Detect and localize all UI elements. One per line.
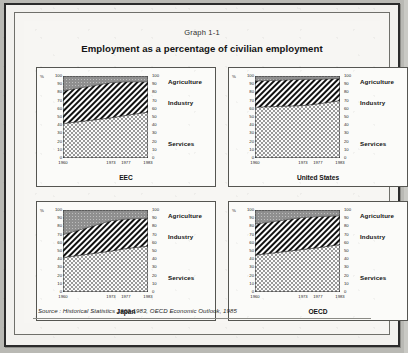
- y-tick-label: 70: [344, 233, 349, 237]
- plot-area: [255, 210, 340, 292]
- y-tick-label: 70: [249, 233, 254, 237]
- y-tick-label: 70: [152, 233, 157, 237]
- legend-label-services: Services: [360, 274, 386, 281]
- y-tick-label: 40: [152, 123, 157, 127]
- x-tick-label: 1977: [313, 160, 322, 165]
- y-tick-label: 90: [57, 82, 62, 86]
- y-tick-label: 100: [152, 74, 159, 78]
- y-axis-left: 1009080706050403020100: [38, 210, 62, 292]
- y-tick-label: 80: [344, 224, 349, 228]
- y-tick-label: 20: [57, 140, 62, 144]
- legend-label-services: Services: [168, 274, 194, 281]
- y-tick-label: 60: [57, 107, 62, 111]
- graph-number: Graph 1-1: [24, 28, 380, 37]
- y-tick-label: 20: [249, 274, 254, 278]
- y-tick-label: 50: [249, 115, 254, 119]
- chart-caption: OECD: [229, 308, 407, 315]
- legend-label-industry: Industry: [360, 99, 385, 106]
- y-tick-label: 90: [57, 216, 62, 220]
- legend-label-agriculture: Agriculture: [168, 212, 202, 219]
- y-tick-label: 90: [344, 82, 349, 86]
- y-tick-label: 100: [247, 74, 254, 78]
- y-tick-label: 100: [55, 208, 62, 212]
- y-tick-label: 80: [57, 224, 62, 228]
- y-tick-label: 70: [57, 233, 62, 237]
- legend-label-industry: Industry: [168, 233, 193, 240]
- y-tick-label: 30: [152, 265, 157, 269]
- y-tick-label: 10: [249, 148, 254, 152]
- y-tick-label: 30: [249, 131, 254, 135]
- x-tick-label: 1960: [58, 294, 67, 299]
- y-tick-label: 90: [344, 216, 349, 220]
- y-tick-label: 80: [344, 90, 349, 94]
- y-tick-label: 10: [344, 148, 349, 152]
- y-tick-label: 30: [152, 131, 157, 135]
- y-tick-label: 90: [152, 216, 157, 220]
- x-tick-label: 1977: [121, 160, 130, 165]
- y-tick-label: 100: [55, 74, 62, 78]
- y-tick-label: 10: [344, 282, 349, 286]
- y-tick-label: 50: [249, 249, 254, 253]
- y-tick-label: 100: [247, 208, 254, 212]
- y-tick-label: 10: [57, 148, 62, 152]
- y-tick-label: 90: [152, 82, 157, 86]
- y-tick-label: 40: [152, 257, 157, 261]
- chart-panel-united-states: %100908070605040302010010090807060504030…: [228, 67, 408, 187]
- y-axis-right: 1009080706050403020100: [342, 76, 356, 158]
- y-tick-label: 20: [344, 274, 349, 278]
- y-axis-right: 1009080706050403020100: [150, 76, 164, 158]
- y-tick-label: 10: [249, 282, 254, 286]
- x-tick-label: 1960: [250, 294, 259, 299]
- chart-panel-eec: %100908070605040302010010090807060504030…: [36, 67, 216, 187]
- chart-legend: Agriculture Industry Services: [168, 210, 216, 292]
- y-tick-label: 20: [344, 140, 349, 144]
- y-tick-label: 30: [57, 131, 62, 135]
- y-tick-label: 10: [152, 148, 157, 152]
- y-tick-label: 60: [249, 241, 254, 245]
- x-tick-label: 1960: [58, 160, 67, 165]
- plot-area: [63, 76, 148, 158]
- x-tick-label: 1983: [143, 160, 152, 165]
- y-tick-label: 100: [344, 208, 351, 212]
- y-tick-label: 50: [152, 115, 157, 119]
- plot-area: [255, 76, 340, 158]
- y-tick-label: 30: [57, 265, 62, 269]
- source-divider: [33, 318, 371, 319]
- x-tick-label: 1983: [335, 294, 344, 299]
- page-frame-inner: Graph 1-1 Employment as a percentage of …: [14, 12, 390, 335]
- y-tick-label: 50: [344, 249, 349, 253]
- plot-area: [63, 210, 148, 292]
- chart-caption: EEC: [37, 174, 215, 181]
- y-tick-label: 60: [344, 241, 349, 245]
- area-services: [255, 101, 340, 158]
- x-tick-label: 1977: [313, 294, 322, 299]
- figure-sheet: Graph 1-1 Employment as a percentage of …: [24, 21, 380, 323]
- legend-label-services: Services: [168, 140, 194, 147]
- y-tick-label: 50: [57, 115, 62, 119]
- source-note: Source : Historical Statistics 1960-1983…: [38, 307, 237, 314]
- y-axis-left: 1009080706050403020100: [38, 76, 62, 158]
- y-tick-label: 60: [57, 241, 62, 245]
- y-tick-label: 30: [344, 265, 349, 269]
- chart-caption: United States: [229, 174, 407, 181]
- y-tick-label: 90: [249, 216, 254, 220]
- x-axis: 1960197319771983: [63, 160, 148, 168]
- x-axis: 1960197319771983: [255, 294, 340, 302]
- y-tick-label: 20: [57, 274, 62, 278]
- y-tick-label: 80: [249, 90, 254, 94]
- y-tick-label: 50: [344, 115, 349, 119]
- y-tick-label: 60: [152, 107, 157, 111]
- y-tick-label: 30: [344, 131, 349, 135]
- y-tick-label: 20: [152, 140, 157, 144]
- legend-label-agriculture: Agriculture: [360, 78, 394, 85]
- y-axis-left: 1009080706050403020100: [230, 210, 254, 292]
- legend-label-industry: Industry: [168, 99, 193, 106]
- y-tick-label: 60: [344, 107, 349, 111]
- y-tick-label: 10: [152, 282, 157, 286]
- x-axis: 1960197319771983: [63, 294, 148, 302]
- y-axis-right: 1009080706050403020100: [150, 210, 164, 292]
- chart-panel-oecd: %100908070605040302010010090807060504030…: [228, 201, 408, 321]
- y-tick-label: 30: [249, 265, 254, 269]
- y-tick-label: 60: [152, 241, 157, 245]
- y-tick-label: 40: [57, 123, 62, 127]
